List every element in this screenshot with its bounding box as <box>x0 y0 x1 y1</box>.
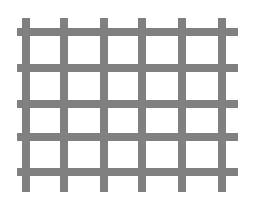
vertical-bar-3 <box>100 18 108 192</box>
horizontal-bar-2 <box>17 64 238 72</box>
vertical-bar-1 <box>22 18 30 192</box>
vertical-bar-2 <box>60 18 68 192</box>
horizontal-bar-5 <box>17 168 238 176</box>
lattice-canvas <box>0 0 254 202</box>
vertical-bar-6 <box>218 18 226 192</box>
lattice-figure <box>0 0 254 202</box>
horizontal-bar-1 <box>17 28 238 36</box>
horizontal-bar-3 <box>17 100 238 108</box>
vertical-bar-5 <box>178 18 186 192</box>
vertical-bar-4 <box>138 18 146 192</box>
horizontal-bar-4 <box>17 133 238 141</box>
